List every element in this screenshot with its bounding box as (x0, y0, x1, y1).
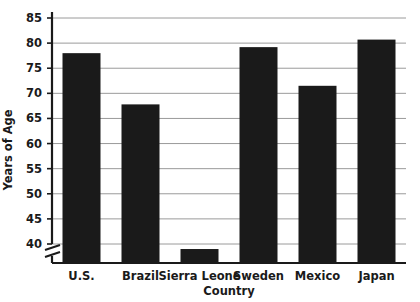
category-label: Sweden (233, 269, 284, 283)
bar (63, 53, 101, 263)
y-tick-label: 75 (26, 61, 42, 75)
bar (240, 47, 278, 263)
bar-chart-figure: 40455055606570758085 U.S.BrazilSierra Le… (0, 0, 420, 302)
y-tick-label: 85 (26, 11, 42, 25)
x-axis-title: Country (203, 284, 255, 298)
category-label: U.S. (68, 269, 94, 283)
y-tick-label: 60 (26, 137, 42, 151)
chart-canvas: 40455055606570758085 U.S.BrazilSierra Le… (0, 0, 420, 302)
y-tick-label: 45 (26, 212, 42, 226)
y-tick-label: 65 (26, 111, 42, 125)
category-label: Brazil (122, 269, 159, 283)
category-label: Mexico (295, 269, 340, 283)
y-tick-label: 40 (26, 237, 42, 251)
bar (358, 40, 396, 263)
y-tick-label: 80 (26, 36, 42, 50)
bar (122, 104, 160, 263)
y-axis-title: Years of Age (1, 109, 15, 191)
y-tick-label: 55 (26, 162, 42, 176)
y-tick-label: 50 (26, 187, 42, 201)
bar (181, 249, 219, 263)
category-label: Sierra Leone (158, 269, 240, 283)
y-tick-label: 70 (26, 86, 42, 100)
bar (299, 86, 337, 263)
category-label: Japan (357, 269, 394, 283)
